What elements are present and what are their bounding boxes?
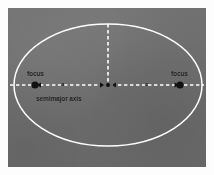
ellipse-diagram-figure: focus focus semimajor axis a c	[0, 0, 214, 175]
ellipse-center-marker	[106, 83, 110, 87]
arrow-tick-a-right	[100, 83, 105, 88]
segment-a-label: a	[61, 81, 64, 87]
focus-marker-left	[31, 81, 38, 88]
arrow-tick-c-left	[112, 83, 117, 88]
ellipse-diagram-graphic	[8, 8, 206, 167]
segment-c-label: c	[145, 81, 148, 87]
focus-marker-right	[176, 81, 183, 88]
semimajor-axis-label: semimajor axis	[36, 96, 82, 103]
focus-label-left: focus	[27, 71, 44, 78]
focus-label-right: focus	[171, 71, 188, 78]
diagram-panel: focus focus semimajor axis a c	[8, 8, 206, 167]
